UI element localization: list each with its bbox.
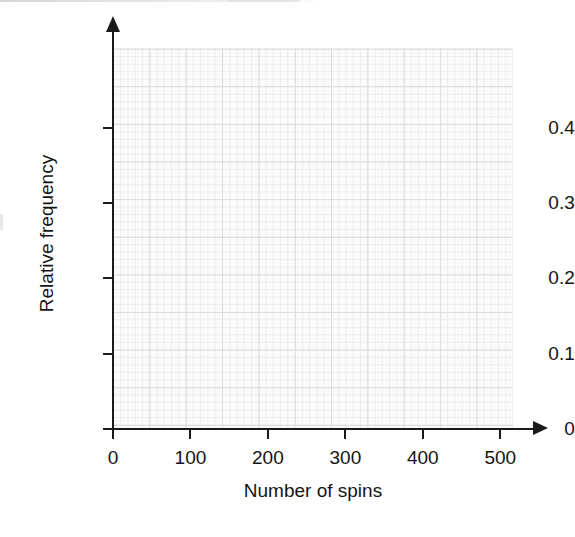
x-axis-tick-label: 300 [310, 447, 380, 468]
x-axis-tick [499, 428, 501, 439]
y-axis-line [112, 28, 114, 430]
x-axis-tick [422, 428, 424, 439]
y-axis-tick [103, 202, 114, 204]
y-axis-title: Relative frequency [35, 122, 58, 346]
x-axis-tick-label: 0 [78, 447, 148, 468]
plot-grid-area [113, 48, 513, 429]
y-axis-tick [103, 127, 114, 129]
y-axis-tick-label: 0.2 [475, 268, 575, 287]
y-axis-tick [103, 353, 114, 355]
x-axis-tick-label: 100 [155, 447, 225, 468]
x-axis-tick [344, 428, 346, 439]
x-axis-tick [189, 428, 191, 439]
scan-artifact-top-2 [228, 0, 300, 2]
x-axis-tick-label: 500 [465, 447, 535, 468]
x-axis-tick-label: 400 [388, 447, 458, 468]
y-axis-tick [103, 277, 114, 279]
y-axis-tick-label: 0.1 [475, 344, 575, 363]
scan-artifact-left [0, 214, 3, 230]
y-axis-arrow-icon [106, 16, 120, 32]
x-axis-title: Number of spins [113, 479, 513, 502]
x-axis-tick-label: 200 [233, 447, 303, 468]
y-axis-tick-label: 0.3 [475, 193, 575, 212]
y-axis-tick-label: 0.4 [475, 118, 575, 137]
x-axis-tick [267, 428, 269, 439]
x-axis-tick [112, 428, 114, 439]
y-axis-tick-label: 0 [475, 419, 575, 438]
